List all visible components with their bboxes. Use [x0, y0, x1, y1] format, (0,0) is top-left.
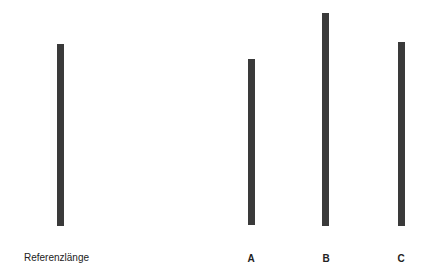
- comparison-line-a: [248, 59, 255, 225]
- comparison-line-b: [322, 13, 329, 226]
- label-c: C: [397, 253, 404, 265]
- reference-line: [57, 44, 64, 226]
- label-a: A: [247, 253, 254, 265]
- label-b: B: [322, 253, 329, 265]
- comparison-line-c: [398, 42, 405, 226]
- reference-label: Referenzlänge: [24, 252, 89, 264]
